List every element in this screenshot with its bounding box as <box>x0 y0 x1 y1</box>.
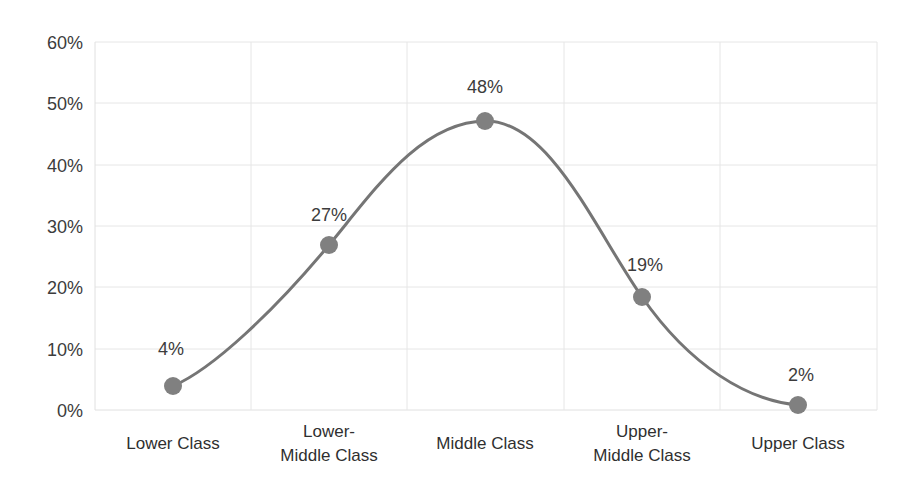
y-tick-label-20: 20% <box>47 278 83 298</box>
y-tick-label-30: 30% <box>47 217 83 237</box>
data-label-lower-middle-class: 27% <box>311 205 347 225</box>
y-tick-label-10: 10% <box>47 340 83 360</box>
line-chart: 60% 50% 40% 30% 20% 10% 0% 4% 27% 48% 19… <box>0 0 910 492</box>
chart-canvas: 60% 50% 40% 30% 20% 10% 0% 4% 27% 48% 19… <box>0 0 910 492</box>
x-axis-category-labels: Lower Class Lower- Middle Class Middle C… <box>126 422 845 465</box>
x-label-middle-class: Middle Class <box>436 434 533 453</box>
data-label-lower-class: 4% <box>158 339 184 359</box>
y-tick-label-60: 60% <box>47 33 83 53</box>
data-label-middle-class: 48% <box>467 77 503 97</box>
x-label-lower-middle-class-line1: Lower- <box>303 422 355 441</box>
y-tick-label-50: 50% <box>47 94 83 114</box>
y-tick-label-40: 40% <box>47 156 83 176</box>
y-axis-tick-labels: 60% 50% 40% 30% 20% 10% 0% <box>47 33 83 421</box>
data-label-upper-class: 2% <box>788 365 814 385</box>
data-point-marker-lower-class[interactable] <box>164 377 182 395</box>
x-label-upper-middle-class-line2: Middle Class <box>593 446 690 465</box>
x-label-lower-middle-class-line2: Middle Class <box>280 446 377 465</box>
y-tick-label-0: 0% <box>57 401 83 421</box>
data-point-marker-middle-class[interactable] <box>476 112 494 130</box>
data-point-marker-lower-middle-class[interactable] <box>320 236 338 254</box>
data-point-marker-upper-middle-class[interactable] <box>633 288 651 306</box>
x-label-lower-class: Lower Class <box>126 434 220 453</box>
x-label-upper-middle-class-line1: Upper- <box>616 422 668 441</box>
data-label-upper-middle-class: 19% <box>627 255 663 275</box>
x-label-upper-class: Upper Class <box>751 434 845 453</box>
data-point-marker-upper-class[interactable] <box>789 396 807 414</box>
